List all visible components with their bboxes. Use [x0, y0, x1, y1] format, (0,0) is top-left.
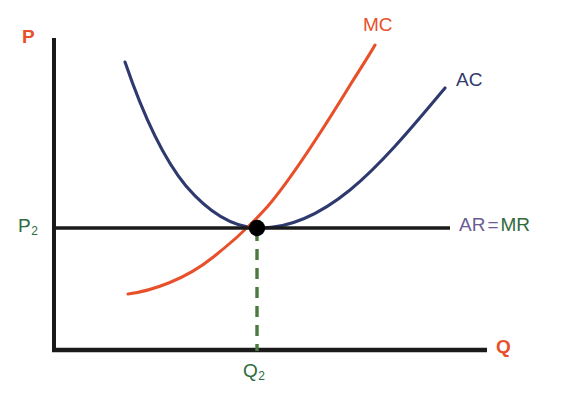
diagram-canvas	[0, 0, 571, 399]
price-p2-base: P	[18, 215, 31, 236]
price-p2-subscript: 2	[31, 224, 38, 238]
x-axis-title: Q	[496, 337, 511, 356]
ar-label-text: AR	[459, 214, 485, 235]
price-p2-label: P2	[18, 216, 38, 237]
mr-label-text: MR	[501, 214, 531, 235]
economics-diagram: P Q MC AC AR=MR P2 Q2	[0, 0, 571, 399]
quantity-q2-label: Q2	[243, 361, 265, 382]
ar-mr-curve-label: AR=MR	[459, 215, 530, 234]
equilibrium-point-dot	[249, 220, 265, 236]
axes-group	[52, 38, 487, 352]
quantity-q2-base: Q	[243, 360, 258, 381]
ac-curve	[125, 62, 445, 228]
quantity-q2-subscript: 2	[258, 369, 265, 383]
mc-curve	[128, 45, 375, 294]
mc-curve-label: MC	[363, 15, 393, 34]
ac-curve-label: AC	[456, 70, 482, 89]
y-axis-title: P	[22, 27, 35, 46]
equals-sign: =	[485, 214, 500, 235]
